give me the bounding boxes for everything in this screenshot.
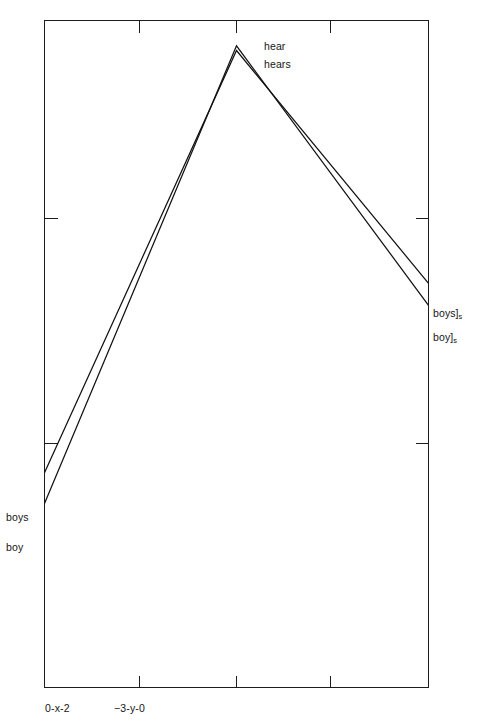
series-line-boy [45, 46, 429, 504]
plot-area [0, 0, 479, 728]
axis-frame [45, 21, 429, 688]
x-axis-tick-label-0: 0-x-2 [45, 702, 70, 714]
series-label-right-boy: boy]s [433, 332, 457, 343]
series-label-right-boys: boys]s [433, 308, 462, 319]
series-label-left-boys: boys [6, 512, 29, 523]
series-label-left-boy: boy [6, 542, 23, 553]
series-label-peak-hear: hear [264, 41, 285, 52]
chart-figure: boys boy hear hears boys]s boy]s 0-x-2 −… [0, 0, 479, 728]
series-label-right-boys-word: boys] [433, 307, 459, 319]
series-label-right-boy-subscript: s [453, 336, 457, 345]
series-label-right-boy-word: boy] [433, 331, 453, 343]
series-line-boys [45, 51, 429, 473]
series-label-right-boys-subscript: s [459, 312, 463, 321]
series-label-peak-hears: hears [264, 59, 291, 70]
x-axis-tick-label-1: −3-y-0 [114, 702, 145, 714]
